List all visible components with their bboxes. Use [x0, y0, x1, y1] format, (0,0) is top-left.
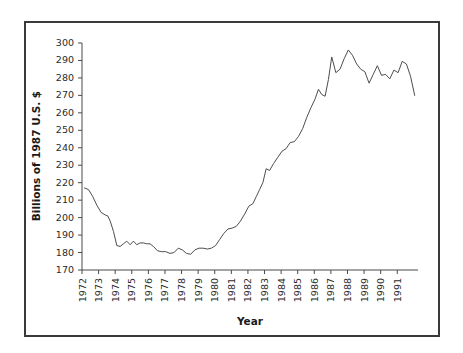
data-series-line	[84, 50, 414, 254]
y-axis-tick-label: 210	[56, 194, 74, 205]
x-axis-tick-label: 1983	[259, 278, 270, 302]
x-axis-tick-label: 1991	[392, 278, 403, 302]
y-axis-tick-label: 250	[56, 124, 74, 135]
x-axis-tick-label: 1974	[110, 278, 121, 302]
x-axis-tick-label: 1975	[126, 278, 137, 302]
x-axis-tick-label: 1976	[143, 278, 154, 302]
y-axis-tick-label: 270	[56, 89, 74, 100]
y-axis-title: Billions of 1987 U.S. $	[30, 91, 42, 221]
y-axis-tick-label: 200	[56, 212, 74, 223]
line-chart: 1701801902002102202302402502602702802903…	[26, 23, 438, 335]
y-axis-tick-label: 190	[56, 229, 74, 240]
y-axis-tick-label: 170	[56, 264, 74, 275]
x-axis-tick-label: 1986	[309, 278, 320, 302]
x-axis-tick-label: 1980	[209, 278, 220, 302]
y-axis-tick-label: 220	[56, 177, 74, 188]
x-axis-tick-label: 1982	[242, 278, 253, 302]
x-axis-tick-label: 1973	[93, 278, 104, 302]
chart-figure: 1701801902002102202302402502602702802903…	[24, 21, 440, 337]
y-axis-tick-label: 240	[56, 142, 74, 153]
x-axis-title: Year	[236, 315, 264, 327]
y-axis-tick-label: 230	[56, 159, 74, 170]
x-axis-tick-label: 1977	[159, 278, 170, 302]
x-axis-tick-label: 1985	[292, 278, 303, 302]
x-axis-tick-label: 1979	[193, 278, 204, 302]
x-axis-tick-label: 1989	[359, 278, 370, 302]
y-axis-tick-label: 300	[56, 37, 74, 48]
y-axis-tick-label: 280	[56, 72, 74, 83]
x-axis-tick-label: 1981	[226, 278, 237, 302]
x-axis-tick-label: 1978	[176, 278, 187, 302]
x-axis-tick-label: 1984	[276, 278, 287, 302]
y-axis-tick-label: 260	[56, 107, 74, 118]
x-axis-tick-label: 1972	[77, 278, 88, 302]
x-axis-tick-label: 1987	[325, 278, 336, 302]
x-axis-tick-label: 1988	[342, 278, 353, 302]
x-axis-tick-label: 1990	[375, 278, 386, 302]
y-axis-tick-label: 180	[56, 247, 74, 258]
y-axis-tick-label: 290	[56, 54, 74, 65]
x-axis-ticks: 1972197319741975197619771978197919801981…	[77, 270, 403, 302]
y-axis-ticks: 1701801902002102202302402502602702802903…	[56, 37, 82, 275]
